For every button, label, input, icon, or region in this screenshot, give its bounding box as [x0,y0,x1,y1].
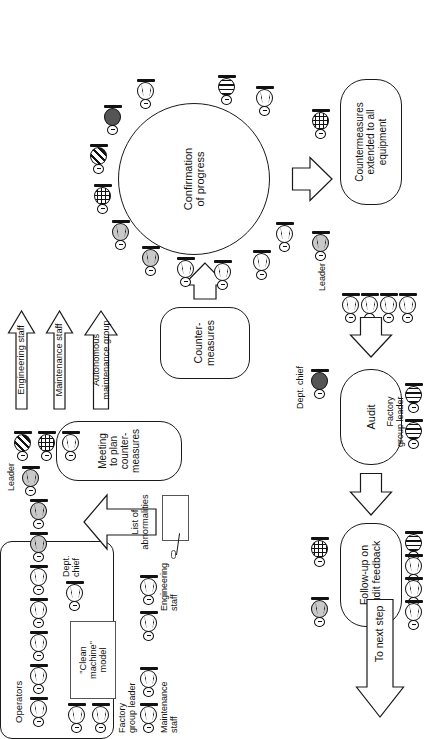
person-operator [30,631,47,661]
person-dept-chief [104,105,121,135]
person-participant [177,257,194,287]
person-operator [30,664,47,694]
person-dept-chief [311,369,328,399]
person-maintenance-staff [90,144,107,174]
person-leader [142,246,159,276]
label-dept-chief-right: Dept. chief [296,366,306,409]
person-factory-group-leader [405,383,422,413]
person-participant [405,600,422,630]
arrow-to-next-step: To next step [356,599,404,717]
node-countermeasures: Counter- measures [160,307,250,379]
person-operator [30,565,47,595]
person-engineering-staff [94,184,111,214]
person-engineering-rep [38,431,55,461]
person-participant [214,260,231,290]
person-leader [312,231,329,261]
person-maintenance-staff [140,667,157,697]
person-autonomous-rep [62,431,79,461]
person-leader [30,532,47,562]
person-dept-chief [66,581,83,611]
equipment-rectangle [162,495,189,541]
node-clean-machine-model: "Clean machine" model [70,621,116,699]
label-engineering-staff: Engineering staff [160,563,180,611]
label-leader-right: Leader [318,263,328,291]
person-leader [22,466,39,496]
person-engineering-staff [311,537,328,567]
arrow-maintenance-staff: Maintenance staff [46,311,73,409]
person-operator [30,598,47,628]
arrow-audit-to-followup [350,473,392,515]
person-participant [256,86,273,116]
label-maintenance-staff: Maintenance staff [160,681,180,733]
diagram-canvas: Operators Leader "Clean machine" model F… [0,0,430,739]
person-factory-group-leader [218,75,235,105]
abnormality-tag [171,550,176,559]
person-factory-group-leader [92,703,109,733]
person-operator [30,697,47,727]
person-leader [112,220,129,250]
person-participant [399,293,416,323]
person-engineering-staff [140,575,157,605]
person-factory-group-leader [405,419,422,449]
arrow-list-of-abnormalities: List of abnormalities [84,491,156,553]
arrow-confirmation-to-extended [292,157,332,201]
person-engineering-staff [312,109,329,139]
person-maintenance-rep [14,431,31,461]
person-leader [311,597,328,627]
label-dept-chief-left: Dept. chief [62,555,82,577]
node-countermeasures-extended: Countermeasures extended to all equipmen… [340,79,402,205]
arrow-engineering-staff: Engineering staff [8,311,35,409]
label-factory-group-leader-right: Factory group leader [386,396,406,447]
person-maintenance-staff [140,703,157,733]
arrow-autonomous-maintenance-group: Autonomous maintenance group [84,311,118,409]
arrow-extended-to-audit [350,317,392,357]
person-leader [30,499,47,529]
person-participant [276,222,293,252]
label-factory-group-leader-left: Factory group leader [118,682,138,733]
person-factory-group-leader [68,703,85,733]
person-participant [253,250,270,280]
person-engineering-staff [140,611,157,641]
label-leader-left: Leader [7,463,17,491]
person-participant [137,79,154,109]
label-operators: Operators [14,681,24,723]
node-confirmation-of-progress: Confirmation of progress [118,103,270,255]
